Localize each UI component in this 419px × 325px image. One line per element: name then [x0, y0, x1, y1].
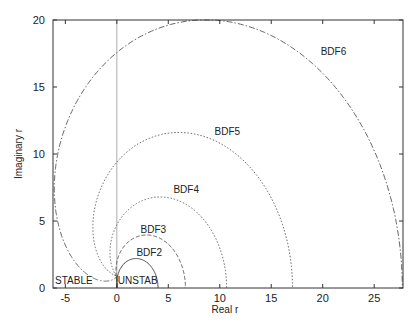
x-tick-label: 0 [114, 292, 120, 304]
x-tick-label: -5 [60, 292, 70, 304]
labels: BDF2BDF3BDF4BDF5BDF6STABLEUNSTAB [55, 46, 347, 286]
bdf3-label: BDF3 [141, 224, 167, 235]
curves [54, 20, 402, 288]
plot-frame [53, 20, 403, 288]
x-tick-label: 25 [368, 292, 380, 304]
x-tick-label: 20 [317, 292, 329, 304]
region-label-stable: STABLE [55, 275, 93, 286]
bdf4-label: BDF4 [173, 184, 199, 195]
y-tick-label: 15 [33, 81, 45, 93]
bdf6-label: BDF6 [321, 46, 347, 57]
region-label-unstab: UNSTAB [118, 275, 158, 286]
bdf-stability-chart: -5051015202505101520Real rImaginary r BD… [0, 0, 419, 325]
y-tick-label: 0 [39, 282, 45, 294]
x-axis-label: Real r [212, 304, 239, 315]
bdf6-curve [54, 20, 402, 288]
axes: -5051015202505101520Real rImaginary r [13, 14, 403, 315]
bdf5-label: BDF5 [215, 126, 241, 137]
y-tick-label: 20 [33, 14, 45, 26]
x-tick-label: 10 [214, 292, 226, 304]
y-tick-label: 5 [39, 215, 45, 227]
bdf2-label: BDF2 [136, 247, 162, 258]
y-tick-label: 10 [33, 148, 45, 160]
y-axis-label: Imaginary r [13, 128, 24, 179]
x-tick-label: 5 [165, 292, 171, 304]
x-tick-label: 15 [265, 292, 277, 304]
